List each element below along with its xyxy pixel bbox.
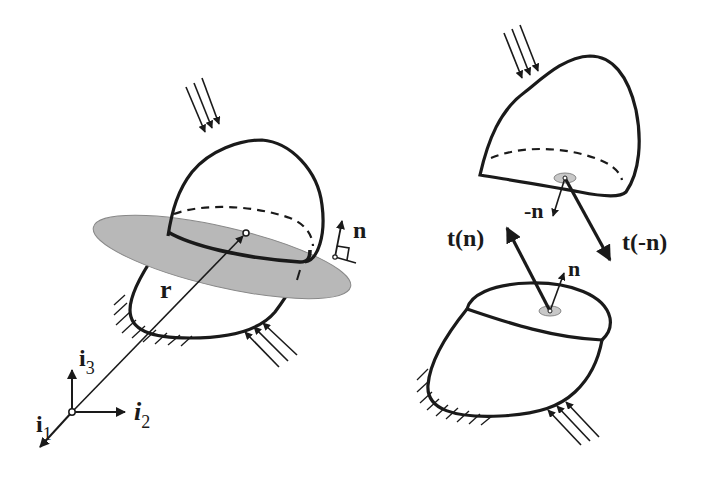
- label-n-left: n: [353, 217, 366, 243]
- label-i1: i1: [36, 411, 52, 444]
- load-arrows-top-left: [186, 78, 219, 132]
- label-t-neg-n: t(-n): [622, 229, 667, 255]
- neg-normal-vector: [553, 178, 565, 216]
- right-panel: -n t(-n) t(n) n: [417, 25, 667, 445]
- label-i3: i3: [79, 345, 95, 378]
- coordinate-axes: [40, 370, 125, 447]
- label-r: r: [160, 275, 172, 304]
- lower-piece-section-edge: [467, 309, 602, 340]
- label-n-right: n: [568, 256, 580, 281]
- load-arrows-top-right: [504, 25, 538, 78]
- left-panel: r n i3 i2 i1: [36, 78, 366, 447]
- load-arrows-bottom-right: [548, 402, 599, 445]
- label-i2: i2: [134, 397, 150, 432]
- label-neg-n: -n: [524, 198, 544, 223]
- point-marker: [243, 230, 249, 236]
- traction-neg-n-vector: [565, 178, 610, 260]
- stress-diagram: r n i3 i2 i1: [0, 0, 711, 479]
- label-t-n: t(n): [447, 225, 484, 251]
- traction-n-vector: [507, 228, 550, 311]
- origin-marker: [69, 409, 75, 415]
- normal-vector-right: [550, 273, 564, 311]
